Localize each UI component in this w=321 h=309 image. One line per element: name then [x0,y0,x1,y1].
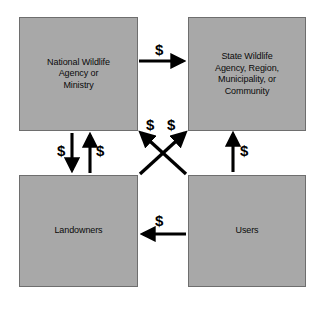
node-landowners[interactable]: Landowners [19,175,138,287]
arrow-landowners-to-state [140,133,185,174]
money-label-cross-left: $ [146,117,154,132]
node-national-wildlife-agency[interactable]: National Wildlife Agency or Ministry [19,17,138,131]
money-label-national-to-state: $ [155,42,163,57]
money-label-national-to-landowners: $ [57,143,65,158]
node-landowners-label: Landowners [50,225,106,237]
money-label-landowners-to-national: $ [96,143,104,158]
node-state-wildlife-agency-label: State Wildlife Agency, Region, Municipal… [211,51,283,97]
node-state-wildlife-agency[interactable]: State Wildlife Agency, Region, Municipal… [188,17,306,131]
money-label-users-to-state: $ [240,143,248,158]
node-users[interactable]: Users [188,175,306,287]
arrow-users-to-national [141,133,186,174]
money-label-users-to-landowners: $ [155,213,163,228]
node-users-label: Users [231,225,262,237]
diagram-canvas: National Wildlife Agency or Ministry Sta… [0,0,321,309]
money-label-cross-right: $ [167,117,175,132]
node-national-wildlife-agency-label: National Wildlife Agency or Ministry [43,57,114,92]
